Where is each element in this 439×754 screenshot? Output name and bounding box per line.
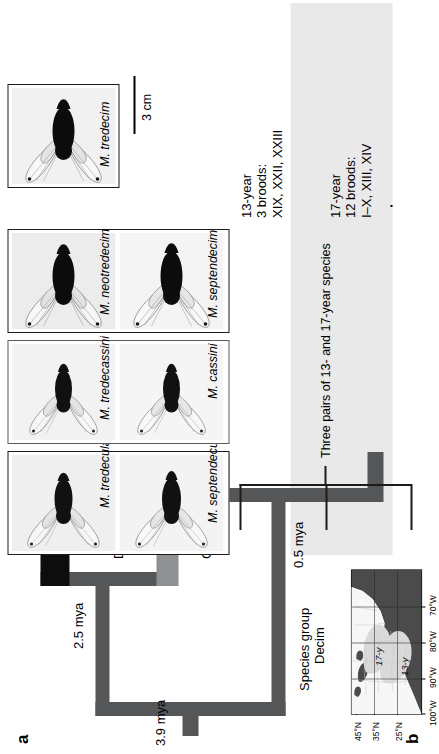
clade-label-decim-line2: Decim bbox=[311, 627, 326, 664]
map-longitude-tick-100W: 100°W bbox=[427, 700, 437, 726]
species-name-tredecula: M. tredecula bbox=[97, 439, 111, 508]
map-region-label-17y: 17-y bbox=[372, 648, 383, 666]
annotation-13-year: 13-year 3 broods: XIX, XXII, XXIII bbox=[238, 130, 284, 218]
node-label-3.9mya: 3.9 mya bbox=[152, 700, 167, 746]
branch-to-decula-cassini bbox=[95, 572, 109, 716]
annotation-17-year-broods: 12 broods: bbox=[342, 144, 357, 218]
species-name-tredecim: M. tredecim bbox=[97, 102, 111, 167]
map-latitude-tick-25N: 25°N bbox=[393, 722, 403, 741]
annotation-17-year-cycle: 17-year bbox=[327, 144, 342, 218]
annotation-13-year-cycle: 13-year bbox=[238, 130, 253, 218]
annotation-13-year-broods: 3 broods: bbox=[253, 130, 268, 218]
map-longitude-tick-90W: 90°W bbox=[427, 667, 437, 688]
annotation-13-year-brood-list: XIX, XXII, XXIII bbox=[269, 130, 284, 218]
panel-b-letter: b bbox=[402, 734, 422, 744]
annotation-17-year-brood-list: I–X, XIII, XIV bbox=[358, 144, 373, 218]
scale-bar-label: 3 cm bbox=[139, 94, 154, 121]
branch-to-decim bbox=[271, 488, 285, 716]
map-longitude-tick-70W: 70°W bbox=[427, 595, 437, 616]
map-frame bbox=[390, 205, 392, 207]
pairs-bracket-arm-3 bbox=[410, 484, 412, 530]
pairs-bracket-arm-1 bbox=[239, 484, 241, 530]
branch-decim-lower bbox=[367, 452, 383, 502]
species-name-neotredecim: M. neotredecim bbox=[97, 229, 111, 315]
scale-bar-line bbox=[133, 76, 135, 134]
map-latitude-tick-35N: 35°N bbox=[370, 722, 380, 741]
clade-label-decim-line1: Species group bbox=[296, 608, 311, 691]
map-region-label-13y: 13-y bbox=[398, 658, 409, 676]
species-name-septendecula: M. septendecula bbox=[205, 431, 219, 523]
figure-content: a b 3.9 mya 2.5 mya 0.5 mya Decula Cas bbox=[0, 0, 439, 754]
map-latitude-tick-45N: 45°N bbox=[352, 722, 362, 741]
node-label-0.5mya: 0.5 mya bbox=[290, 522, 305, 568]
annotation-17-year: 17-year 12 broods: I–X, XIII, XIV bbox=[327, 144, 373, 218]
branch-root-spine bbox=[95, 702, 285, 716]
species-name-septendecim: M. septendecim bbox=[205, 230, 219, 318]
figure-canvas: a b 3.9 mya 2.5 mya 0.5 mya Decula Cas bbox=[0, 0, 439, 754]
node-label-2.5mya: 2.5 mya bbox=[70, 603, 85, 649]
pairs-bracket-arm-2 bbox=[325, 484, 327, 530]
map-graphic bbox=[350, 569, 430, 715]
map-longitude-tick-80W: 80°W bbox=[427, 631, 437, 652]
pairs-bracket-label: Three pairs of 13- and 17-year species bbox=[318, 243, 333, 458]
pairs-bracket-stem bbox=[324, 466, 326, 486]
species-name-tredecassini: M. tredecassini bbox=[97, 336, 111, 420]
species-name-cassini: M. cassini bbox=[205, 343, 219, 399]
panel-a-letter: a bbox=[12, 735, 32, 744]
branch-root-stem bbox=[182, 714, 198, 736]
